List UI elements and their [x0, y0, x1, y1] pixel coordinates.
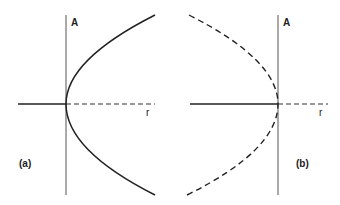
- diagram: A r (a) A r (b): [0, 0, 340, 205]
- axis-label-A-b: A: [283, 17, 290, 28]
- axis-label-A-a: A: [71, 17, 78, 28]
- parabola-curve-b: [187, 15, 278, 195]
- axis-label-r-b: r: [319, 107, 323, 118]
- panel-caption-b: (b): [296, 158, 309, 169]
- axis-label-r-a: r: [146, 107, 150, 118]
- panel-caption-a: (a): [19, 158, 31, 169]
- parabola-curve-a: [66, 15, 155, 195]
- panel-b: A r (b): [187, 15, 328, 195]
- panel-a: A r (a): [18, 15, 155, 195]
